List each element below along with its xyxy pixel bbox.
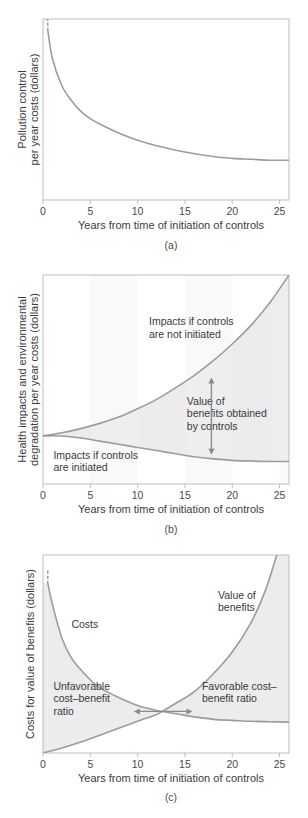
annotation-label: Value ofbenefits — [218, 589, 256, 614]
x-tick-label: 10 — [132, 758, 144, 770]
chart-c: 0510152025CostsValue ofbenefitsUnfavorab… — [0, 0, 308, 818]
panel-label: (c) — [165, 791, 177, 803]
annotation-label: Costs — [71, 618, 98, 630]
x-tick-label: 15 — [179, 758, 191, 770]
unfavorable-region — [48, 583, 162, 752]
x-tick-label: 25 — [274, 758, 286, 770]
x-tick-label: 5 — [87, 758, 93, 770]
chart-c-svg: 0510152025CostsValue ofbenefitsUnfavorab… — [0, 0, 308, 818]
chart-c-group: 0510152025CostsValue ofbenefitsUnfavorab… — [24, 496, 289, 803]
y-axis-label: Costs for value of benefits (dollars) — [24, 569, 36, 739]
x-tick-label: 20 — [226, 758, 238, 770]
x-axis-label: Years from time of initiation of control… — [78, 772, 265, 784]
x-tick-label: 0 — [40, 758, 46, 770]
